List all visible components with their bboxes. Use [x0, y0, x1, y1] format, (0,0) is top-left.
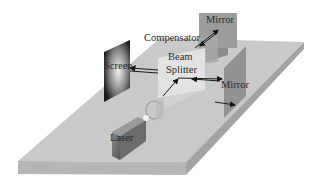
- label-mirror-top: Mirror: [206, 15, 234, 26]
- interferometer-diagram: Mirror Compensator Beam Splitter Screen …: [0, 0, 319, 185]
- label-compensator: Compensator: [144, 33, 200, 44]
- label-beam: Beam: [168, 52, 193, 63]
- table-front: [18, 161, 186, 175]
- label-laser: Laser: [110, 133, 133, 144]
- label-mirror-right: Mirror: [221, 80, 249, 91]
- label-splitter: Splitter: [166, 65, 197, 76]
- label-screen: Screen: [104, 61, 133, 72]
